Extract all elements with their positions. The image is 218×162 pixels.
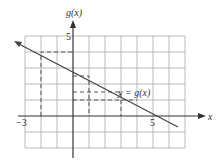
axes xyxy=(18,28,200,158)
tick-y-top: 5 xyxy=(66,31,71,42)
y-axis-arrow-icon xyxy=(70,20,76,28)
curve-arrow-icon xyxy=(14,41,22,47)
graph: g(x) x y = g(x) −3 5 5 xyxy=(0,0,218,162)
tick-x-right: 5 xyxy=(150,117,155,128)
y-axis-label: g(x) xyxy=(66,7,83,19)
tick-x-left: −3 xyxy=(16,117,27,128)
curve-label: y = g(x) xyxy=(117,87,151,99)
x-axis-label: x xyxy=(207,111,213,122)
x-axis-arrow-icon xyxy=(198,113,206,119)
